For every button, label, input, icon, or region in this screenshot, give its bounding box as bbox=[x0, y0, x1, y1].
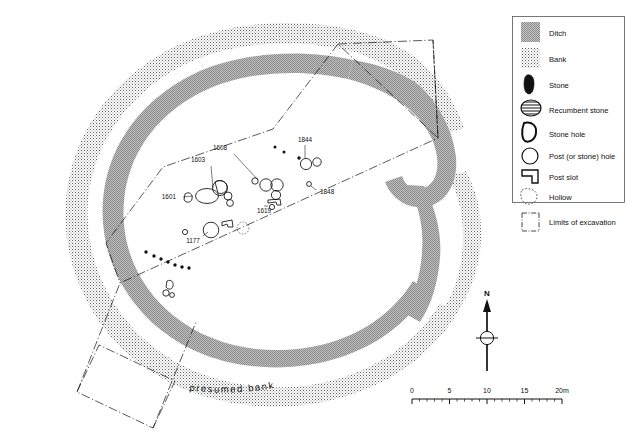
feature-label-1619: 1619 bbox=[257, 207, 272, 214]
plan-canvas: 1608 1603 1601 1619 1177 1844 1848 presu… bbox=[0, 0, 632, 434]
legend-swatch-ditch-icon bbox=[521, 22, 540, 42]
feature-label-1603: 1603 bbox=[191, 156, 206, 163]
north-arrow-label: N bbox=[484, 289, 490, 298]
legend-swatch-post-hole-icon bbox=[522, 148, 538, 164]
legend-label-post-hole: Post (or stone) hole bbox=[549, 152, 615, 161]
feature-dot-arc3 bbox=[159, 257, 162, 260]
feature-dot-arc2 bbox=[152, 254, 155, 257]
scale-tick-label-5: 5 bbox=[448, 387, 452, 394]
legend-label-limits: Limits of excavation bbox=[549, 218, 616, 227]
feature-dot-arc4 bbox=[166, 260, 169, 263]
site-plan-figure: 1608 1603 1601 1619 1177 1844 1848 presu… bbox=[0, 0, 632, 434]
feature-label-1844: 1844 bbox=[298, 136, 313, 143]
legend-label-recumbent-stone: Recumbent stone bbox=[549, 106, 609, 115]
scale-tick-label-10: 10 bbox=[483, 387, 491, 394]
feature-dot-arc6 bbox=[180, 265, 183, 268]
feature-dot-arc1 bbox=[144, 250, 147, 253]
feature-label-1601: 1601 bbox=[162, 193, 177, 200]
scale-tick-label-0: 0 bbox=[410, 387, 414, 394]
feature-stone-1844-c bbox=[297, 156, 300, 159]
legend-panel: Ditch Bank Stone Recumbent stone bbox=[513, 17, 625, 232]
legend-swatch-stone-hole-icon bbox=[522, 123, 536, 142]
scale-tick-label-15: 15 bbox=[521, 387, 529, 394]
legend-label-stone-hole: Stone hole bbox=[549, 130, 585, 139]
feature-label-1848: 1848 bbox=[320, 188, 335, 195]
feature-dot-n1 bbox=[274, 146, 277, 149]
legend-label-bank: Bank bbox=[549, 55, 567, 64]
feature-label-1177: 1177 bbox=[186, 237, 200, 244]
legend-label-stone: Stone bbox=[549, 81, 569, 90]
legend-label-post-slot: Post slot bbox=[549, 173, 579, 182]
legend-swatch-bank-icon bbox=[521, 48, 540, 68]
legend-swatch-stone-icon bbox=[524, 75, 534, 94]
feature-dot-n2 bbox=[283, 151, 286, 154]
feature-dot-arc5 bbox=[173, 263, 176, 266]
legend-label-hollow: Hollow bbox=[549, 193, 572, 202]
legend-label-ditch: Ditch bbox=[549, 29, 566, 38]
scale-tick-label-20: 20m bbox=[555, 387, 569, 394]
feature-label-1608: 1608 bbox=[213, 144, 228, 151]
feature-dot-arc7 bbox=[187, 266, 190, 269]
